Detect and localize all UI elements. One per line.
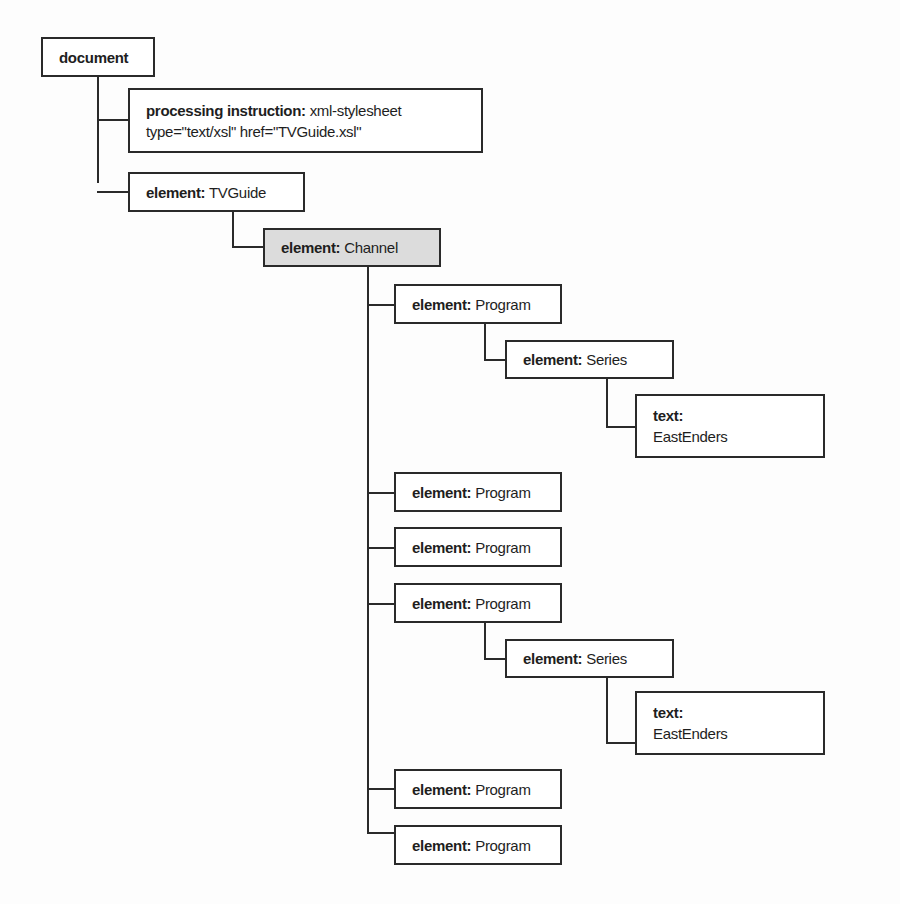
- node-value: TVGuide: [209, 184, 266, 201]
- connector: [606, 378, 608, 427]
- node-kind: element:: [412, 484, 471, 501]
- node-kind: element:: [412, 781, 471, 798]
- node-text: text: EastEnders: [635, 394, 825, 458]
- node-value: EastEnders: [653, 426, 807, 447]
- node-value: Program: [475, 484, 530, 501]
- connector: [606, 742, 635, 744]
- connector: [367, 266, 369, 833]
- node-element-series: element: Series: [505, 340, 674, 379]
- node-element-program: element: Program: [394, 583, 562, 623]
- node-processing-instruction: processing instruction: xml-stylesheet t…: [128, 88, 483, 153]
- connector: [367, 547, 394, 549]
- node-value: Series: [586, 650, 627, 667]
- node-element-program: element: Program: [394, 284, 562, 324]
- node-kind: element:: [523, 650, 582, 667]
- connector: [606, 426, 635, 428]
- node-element-tvguide: element: TVGuide: [128, 172, 305, 212]
- node-element-program: element: Program: [394, 527, 562, 567]
- connector: [97, 191, 128, 193]
- node-kind: processing instruction:: [146, 102, 306, 119]
- node-element-channel: element: Channel: [263, 228, 441, 267]
- node-document: document: [41, 37, 155, 77]
- node-value: Program: [475, 296, 530, 313]
- node-value: Program: [475, 539, 530, 556]
- connector: [367, 603, 394, 605]
- connector: [484, 323, 486, 360]
- node-value: xml-stylesheet: [310, 102, 402, 119]
- node-kind: text:: [653, 407, 683, 424]
- connector: [232, 211, 234, 247]
- connector: [367, 832, 394, 834]
- node-value-line2: type="text/xsl" href="TVGuide.xsl": [146, 121, 465, 142]
- node-value: EastEnders: [653, 723, 807, 744]
- node-kind: element:: [412, 595, 471, 612]
- connector: [367, 492, 394, 494]
- node-value: Series: [586, 351, 627, 368]
- connector: [484, 622, 486, 659]
- connector: [97, 76, 99, 183]
- connector: [367, 788, 394, 790]
- node-element-program: element: Program: [394, 825, 562, 865]
- node-kind: document: [59, 49, 128, 66]
- node-kind: element:: [146, 184, 205, 201]
- node-element-program: element: Program: [394, 472, 562, 512]
- node-element-program: element: Program: [394, 769, 562, 809]
- node-value: Program: [475, 837, 530, 854]
- node-kind: text:: [653, 704, 683, 721]
- node-kind: element:: [523, 351, 582, 368]
- node-kind: element:: [412, 837, 471, 854]
- node-kind: element:: [281, 239, 340, 256]
- node-value: Channel: [344, 239, 398, 256]
- connector: [606, 677, 608, 743]
- node-kind: element:: [412, 296, 471, 313]
- connector: [367, 304, 394, 306]
- connector: [232, 246, 263, 248]
- connector: [97, 119, 128, 121]
- node-value: Program: [475, 781, 530, 798]
- node-element-series: element: Series: [505, 639, 674, 678]
- node-value: Program: [475, 595, 530, 612]
- node-text: text: EastEnders: [635, 691, 825, 755]
- node-kind: element:: [412, 539, 471, 556]
